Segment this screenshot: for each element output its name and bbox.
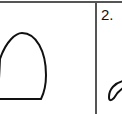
curve-shape-drawing bbox=[97, 3, 122, 114]
worksheet-cell-1 bbox=[0, 3, 95, 114]
worksheet-cell-2: 2. bbox=[97, 3, 122, 114]
dome-shape-drawing bbox=[0, 3, 95, 114]
worksheet-page: 2. bbox=[0, 0, 122, 114]
